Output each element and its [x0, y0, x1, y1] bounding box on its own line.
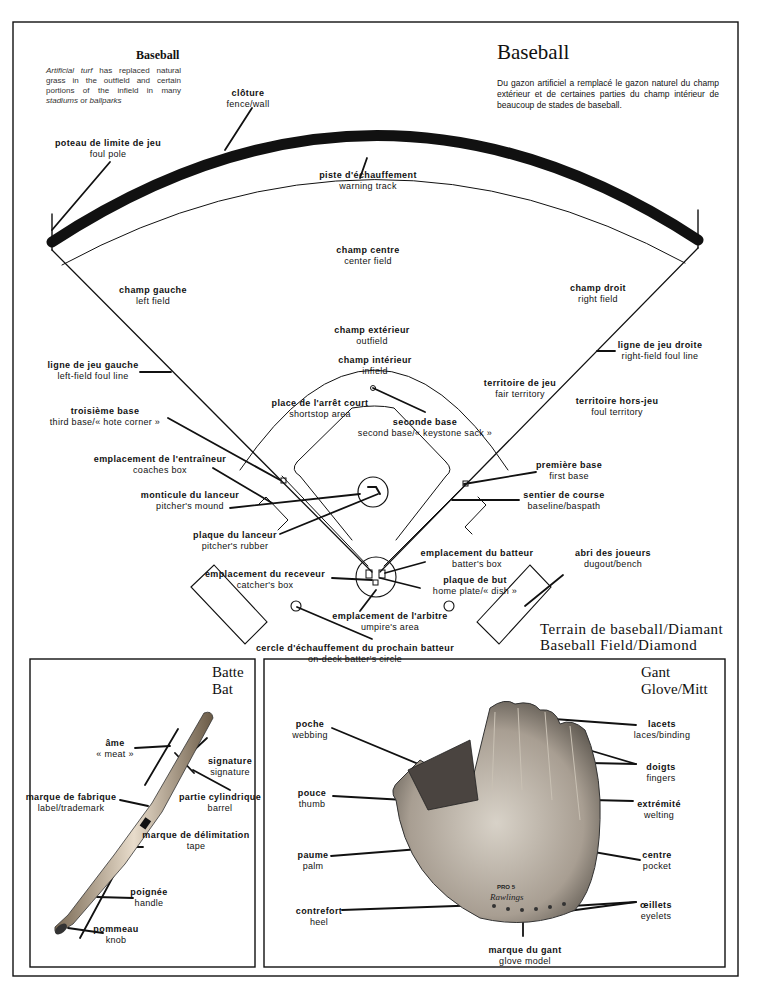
- label-batters-box: emplacement du batteurbatter's box: [421, 548, 534, 570]
- label-fr: territoire hors-jeu: [576, 396, 659, 407]
- label-fr: champ centre: [336, 245, 399, 256]
- label-knob: pommeauknob: [93, 924, 138, 946]
- pitchers-mound: [358, 477, 388, 507]
- label-warning-track: piste d'échauffementwarning track: [319, 170, 417, 192]
- label-eyelets: œilletseyelets: [640, 900, 672, 922]
- label-signature: signaturesignature: [208, 756, 252, 778]
- label-en: webbing: [292, 730, 328, 741]
- label-laces: lacetslaces/binding: [634, 719, 690, 741]
- label-en: right-field foul line: [618, 351, 703, 362]
- label-welting: extrémitéwelting: [637, 799, 681, 821]
- label-shortstop: place de l'arrêt courtshortstop area: [272, 398, 369, 420]
- label-fr: pommeau: [93, 924, 138, 935]
- label-en: « meat »: [96, 749, 133, 760]
- label-fr: piste d'échauffement: [319, 170, 417, 181]
- label-en: coaches box: [94, 465, 226, 476]
- label-en: right field: [570, 294, 626, 305]
- label-en: home plate/« dish »: [433, 586, 517, 597]
- label-en: dugout/bench: [575, 559, 651, 570]
- label-barrel: partie cylindriquebarrel: [179, 792, 261, 814]
- label-left-field: champ gaucheleft field: [119, 285, 187, 307]
- label-en: warning track: [319, 181, 417, 192]
- label-fr: lacets: [634, 719, 690, 730]
- label-fr: marque de fabrique: [26, 792, 117, 803]
- label-tape: marque de délimitationtape: [142, 830, 249, 852]
- label-fr: ligne de jeu gauche: [47, 360, 138, 371]
- label-en: left-field foul line: [47, 371, 138, 382]
- title-fr: Baseball: [497, 40, 569, 65]
- label-en: baseline/baspath: [523, 501, 604, 512]
- label-fr: place de l'arrêt court: [272, 398, 369, 409]
- label-infield: champ intérieurinfield: [338, 355, 412, 377]
- label-en: batter's box: [421, 559, 534, 570]
- label-en: fingers: [646, 773, 675, 784]
- label-fr: monticule du lanceur: [141, 490, 240, 501]
- label-fr: marque du gant: [488, 945, 561, 956]
- label-pocket: centrepocket: [642, 850, 671, 872]
- label-fr: centre: [642, 850, 671, 861]
- label-fr: champ extérieur: [334, 325, 410, 336]
- label-fr: champ intérieur: [338, 355, 412, 366]
- label-pitchers-rubber: plaque du lanceurpitcher's rubber: [193, 530, 277, 552]
- label-en: second base/« keystone sack »: [358, 428, 492, 439]
- note-en: Artificial turf has replaced natural gra…: [46, 66, 181, 106]
- label-en: knob: [93, 935, 138, 946]
- label-meat: âme« meat »: [96, 738, 133, 760]
- glove-title: Gant Glove/Mitt: [641, 664, 708, 698]
- label-fingers: doigtsfingers: [646, 762, 675, 784]
- label-fr: clôture: [226, 88, 269, 99]
- label-fr: emplacement de l'arbitre: [332, 611, 447, 622]
- label-right-foul-line: ligne de jeu droiteright-field foul line: [618, 340, 703, 362]
- label-en: laces/binding: [634, 730, 690, 741]
- label-fr: partie cylindrique: [179, 792, 261, 803]
- label-en: handle: [130, 898, 167, 909]
- field-caption: Terrain de baseball/Diamant Baseball Fie…: [540, 621, 723, 653]
- label-glove-model: marque du gantglove model: [488, 945, 561, 967]
- label-fr: pouce: [298, 788, 327, 799]
- bat-title: Batte Bat: [212, 664, 244, 698]
- label-en: shortstop area: [272, 409, 369, 420]
- label-trademark: marque de fabriquelabel/trademark: [26, 792, 117, 814]
- label-fr: âme: [96, 738, 133, 749]
- title-en: Baseball: [136, 48, 179, 63]
- label-fr: emplacement du batteur: [421, 548, 534, 559]
- label-en: left field: [119, 296, 187, 307]
- label-on-deck: cercle d'échauffement du prochain batteu…: [256, 643, 454, 665]
- label-third-base: troisième basethird base/« hote corner »: [50, 406, 160, 428]
- glove-brand-imprint: Rawlings: [490, 892, 524, 902]
- label-outfield: champ extérieuroutfield: [334, 325, 410, 347]
- label-en: pocket: [642, 861, 671, 872]
- label-en: infield: [338, 366, 412, 377]
- label-right-field: champ droitright field: [570, 283, 626, 305]
- label-fr: champ droit: [570, 283, 626, 294]
- label-fr: emplacement de l'entraîneur: [94, 454, 226, 465]
- label-center-field: champ centrecenter field: [336, 245, 399, 267]
- label-baseline: sentier de coursebaseline/baspath: [523, 490, 604, 512]
- label-en: umpire's area: [332, 622, 447, 633]
- label-fr: signature: [208, 756, 252, 767]
- label-second-base: seconde basesecond base/« keystone sack …: [358, 417, 492, 439]
- label-en: label/trademark: [26, 803, 117, 814]
- label-catchers-box: emplacement du receveurcatcher's box: [205, 569, 325, 591]
- bat-title-en: Bat: [212, 681, 244, 698]
- page-frame: [13, 22, 738, 976]
- label-fr: territoire de jeu: [484, 378, 556, 389]
- label-fr: contrefort: [296, 906, 343, 917]
- label-foul-territory: territoire hors-jeufoul territory: [576, 396, 659, 418]
- label-fr: troisième base: [50, 406, 160, 417]
- label-fr: champ gauche: [119, 285, 187, 296]
- label-en: third base/« hote corner »: [50, 417, 160, 428]
- label-en: welting: [637, 810, 681, 821]
- label-fr: marque de délimitation: [142, 830, 249, 841]
- field-caption-en: Baseball Field/Diamond: [540, 637, 723, 653]
- label-en: center field: [336, 256, 399, 267]
- label-fr: cercle d'échauffement du prochain batteu…: [256, 643, 454, 654]
- label-en: barrel: [179, 803, 261, 814]
- field-caption-fr: Terrain de baseball/Diamant: [540, 621, 723, 637]
- label-fair-territory: territoire de jeufair territory: [484, 378, 556, 400]
- label-en: signature: [208, 767, 252, 778]
- label-foul-pole: poteau de limite de jeufoul pole: [55, 138, 161, 160]
- label-home-plate: plaque de buthome plate/« dish »: [433, 575, 517, 597]
- label-coaches-box: emplacement de l'entraîneurcoaches box: [94, 454, 226, 476]
- label-en: catcher's box: [205, 580, 325, 591]
